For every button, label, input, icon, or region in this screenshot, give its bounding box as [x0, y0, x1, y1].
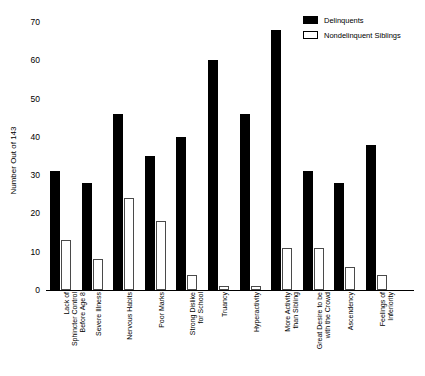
x-axis-baseline — [46, 290, 414, 291]
y-tick-label-50: 50 — [31, 94, 40, 103]
y-tick-label-60: 60 — [31, 56, 40, 65]
bar-nondelinquent-siblings — [124, 198, 134, 290]
y-tick-label-0: 0 — [35, 286, 40, 295]
y-tick-label-20: 20 — [31, 209, 40, 218]
bar-nondelinquent-siblings — [187, 275, 197, 290]
bar-group — [145, 22, 167, 290]
bar-delinquents — [240, 114, 250, 290]
bar-group — [82, 22, 104, 290]
bar-nondelinquent-siblings — [251, 286, 261, 290]
bar-nondelinquent-siblings — [345, 267, 355, 290]
x-axis-labels: Lack of Sphincter Control Before Age 8Se… — [46, 292, 414, 376]
bar-delinquents — [113, 114, 123, 290]
y-tick-label-40: 40 — [31, 133, 40, 142]
x-tick-label: Ascendency — [347, 292, 355, 372]
bar-delinquents — [271, 30, 281, 290]
x-tick-label: Great Desire to be with the Crowd — [316, 292, 332, 372]
bar-delinquents — [145, 156, 155, 290]
bar-delinquents — [50, 171, 60, 290]
y-tick-label-30: 30 — [31, 171, 40, 180]
bar-delinquents — [334, 183, 344, 290]
bar-group — [303, 22, 325, 290]
bar-group — [366, 22, 388, 290]
plot-area — [46, 22, 414, 290]
bar-nondelinquent-siblings — [93, 259, 103, 290]
bar-nondelinquent-siblings — [61, 240, 71, 290]
bar-group — [176, 22, 198, 290]
bar-group — [240, 22, 262, 290]
x-tick-label: Lack of Sphincter Control Before Age 8 — [63, 292, 87, 372]
y-tick-label-70: 70 — [31, 18, 40, 27]
bar-delinquents — [176, 137, 186, 290]
x-tick-label: Severe Illness — [95, 292, 103, 372]
bar-nondelinquent-siblings — [156, 221, 166, 290]
bar-nondelinquent-siblings — [314, 248, 324, 290]
x-tick-label: Feelings of Inferiority — [379, 292, 395, 372]
bar-nondelinquent-siblings — [282, 248, 292, 290]
x-tick-label: Truancy — [221, 292, 229, 372]
bar-delinquents — [82, 183, 92, 290]
y-axis-title: Number Out of 143 — [9, 101, 18, 221]
bar-group — [50, 22, 72, 290]
y-tick-label-10: 10 — [31, 247, 40, 256]
x-tick-label: Strong Dislike for School — [189, 292, 205, 372]
bar-nondelinquent-siblings — [219, 286, 229, 290]
x-tick-label: Hyperactivity — [253, 292, 261, 372]
x-tick-label: Poor Marks — [158, 292, 166, 372]
bar-delinquents — [366, 145, 376, 290]
bar-delinquents — [208, 60, 218, 290]
bar-group — [271, 22, 293, 290]
x-tick-label: More Activity than Sibling — [284, 292, 300, 372]
x-tick-label: Nervous Habits — [126, 292, 134, 372]
bar-group — [334, 22, 356, 290]
y-axis: Number Out of 143 010203040506070 — [0, 0, 46, 376]
bar-chart: Delinquents Nondelinquent Siblings Numbe… — [0, 0, 425, 376]
bar-nondelinquent-siblings — [377, 275, 387, 290]
bar-group — [113, 22, 135, 290]
bar-group — [208, 22, 230, 290]
bar-delinquents — [303, 171, 313, 290]
